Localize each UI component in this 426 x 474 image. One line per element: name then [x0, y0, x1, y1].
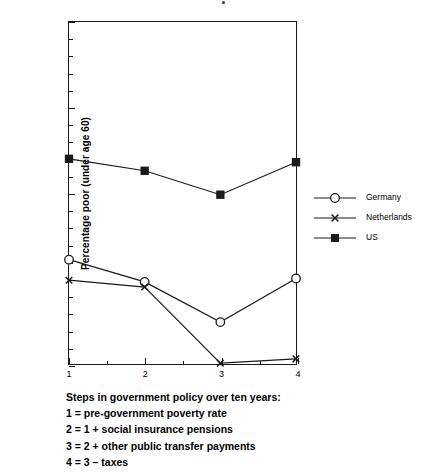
marker-open-circle [216, 318, 225, 327]
marker-filled-square [141, 167, 149, 175]
marker-filled-square [216, 191, 224, 199]
legend-label-netherlands: Netherlands [366, 212, 412, 222]
marker-open-circle [292, 274, 301, 283]
x-tick-label-4: 4 [283, 370, 313, 379]
caption-line-4: 3 = 2 + other public transfer payments [66, 438, 281, 454]
marker-open-circle [65, 255, 74, 264]
filled-square-icon [312, 228, 358, 248]
legend-item-netherlands: Netherlands [312, 208, 426, 228]
legend-label-us: US [366, 232, 378, 242]
legend-item-us: US [312, 228, 426, 248]
caption-block: Steps in government policy over ten year… [66, 389, 281, 470]
marker-filled-square [65, 155, 73, 163]
series-us [65, 155, 300, 199]
series-germany [65, 255, 301, 326]
legend-item-germany: Germany [312, 188, 426, 208]
series-plot [69, 22, 296, 364]
scan-artifact [222, 1, 225, 4]
open-circle-icon [312, 188, 358, 208]
legend: Germany Netherlands US [312, 188, 426, 248]
x-cross-icon [312, 208, 358, 228]
legend-label-germany: Germany [366, 192, 401, 202]
y-tick-major [69, 366, 75, 367]
marker-filled-square [292, 158, 300, 166]
series-netherlands [66, 277, 300, 366]
caption-line-3: 2 = 1 + social insurance pensions [66, 421, 281, 437]
caption-line-2: 1 = pre-government poverty rate [66, 405, 281, 421]
caption-line-1: Steps in government policy over ten year… [66, 389, 281, 405]
caption-line-5: 4 = 3 – taxes [66, 454, 281, 470]
x-tick-label-3: 3 [207, 370, 237, 379]
plot-area: Percentage poor (under age 60) 20 15 10 … [68, 21, 297, 365]
x-tick-label-2: 2 [130, 370, 160, 379]
x-tick-label-1: 1 [54, 370, 84, 379]
chart-figure: Percentage poor (under age 60) 20 15 10 … [0, 0, 426, 474]
